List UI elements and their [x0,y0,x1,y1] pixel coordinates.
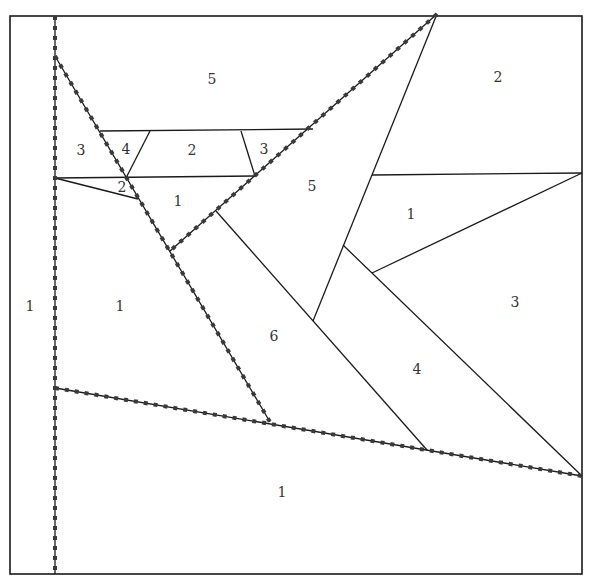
piece-line [216,211,427,450]
piece-line [241,131,255,176]
pattern-diagram: 1523423215113641 [0,0,592,580]
piece-number-label: 5 [208,71,217,87]
piece-line [55,176,255,178]
piece-number-label: 1 [26,298,35,314]
piece-number-label: 3 [511,294,520,310]
piece-line [100,129,313,131]
piece-number-label: 2 [494,69,503,85]
piece-number-label: 1 [278,484,287,500]
piece-number-label: 5 [308,178,317,194]
piece-number-label: 4 [413,361,422,377]
piece-number-label: 3 [260,141,269,157]
block-border [10,16,582,574]
quilt-block-canvas: 1523423215113641 [0,0,592,580]
piece-number-label: 3 [77,142,86,158]
piece-number-label: 1 [174,193,183,209]
piece-number-label: 1 [116,298,125,314]
piece-number-label: 2 [188,142,197,158]
piece-line [372,173,582,175]
piece-line [313,14,437,321]
piece-number-label: 1 [407,206,416,222]
diagonal-left-seam-marks [55,56,270,422]
piece-line [343,245,582,476]
piece-number-label: 2 [118,179,127,195]
piece-number-label: 4 [122,141,131,157]
piece-line [372,173,582,273]
piece-number-label: 6 [270,328,279,344]
